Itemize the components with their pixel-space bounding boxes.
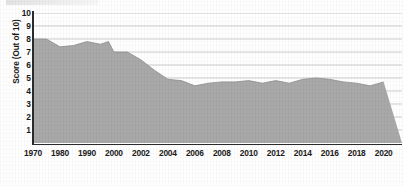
y-axis-tick-labels: 12345678910 bbox=[6, 0, 31, 186]
x-axis-tick: 1990 bbox=[78, 148, 96, 158]
chart-canvas bbox=[33, 13, 402, 143]
x-axis-tick-labels: 1970198019902000200220042006200820102012… bbox=[33, 148, 402, 170]
x-axis-tick: 2002 bbox=[132, 148, 150, 158]
y-axis-tick: 4 bbox=[7, 87, 31, 95]
x-axis-tick: 2004 bbox=[159, 148, 177, 158]
y-axis-spine bbox=[32, 11, 34, 145]
y-axis-tick: 5 bbox=[7, 74, 31, 82]
x-axis-tick: 2014 bbox=[294, 148, 312, 158]
series-area-score bbox=[33, 39, 402, 143]
x-axis-spine bbox=[32, 144, 402, 145]
plot-area bbox=[33, 13, 402, 143]
y-axis-tick: 8 bbox=[7, 35, 31, 43]
x-axis-tick: 2012 bbox=[267, 148, 285, 158]
x-axis-tick: 2018 bbox=[348, 148, 366, 158]
y-axis-tick: 6 bbox=[7, 61, 31, 69]
y-axis-tick: 9 bbox=[7, 22, 31, 30]
y-axis-tick: 2 bbox=[7, 113, 31, 121]
x-axis-tick: 1980 bbox=[51, 148, 69, 158]
area-chart: Score (Out of 10) 12345678910 1970198019… bbox=[0, 0, 404, 186]
x-axis-tick: 2008 bbox=[213, 148, 231, 158]
y-axis-tick: 10 bbox=[7, 9, 31, 17]
x-axis-tick: 2020 bbox=[375, 148, 393, 158]
y-axis-tick: 1 bbox=[7, 126, 31, 134]
y-axis-tick: 3 bbox=[7, 100, 31, 108]
x-axis-tick: 2000 bbox=[105, 148, 123, 158]
x-axis-tick: 2016 bbox=[321, 148, 339, 158]
x-axis-tick: 2006 bbox=[186, 148, 204, 158]
x-axis-tick: 2010 bbox=[240, 148, 258, 158]
x-axis-tick: 1970 bbox=[24, 148, 42, 158]
y-axis-tick: 7 bbox=[7, 48, 31, 56]
